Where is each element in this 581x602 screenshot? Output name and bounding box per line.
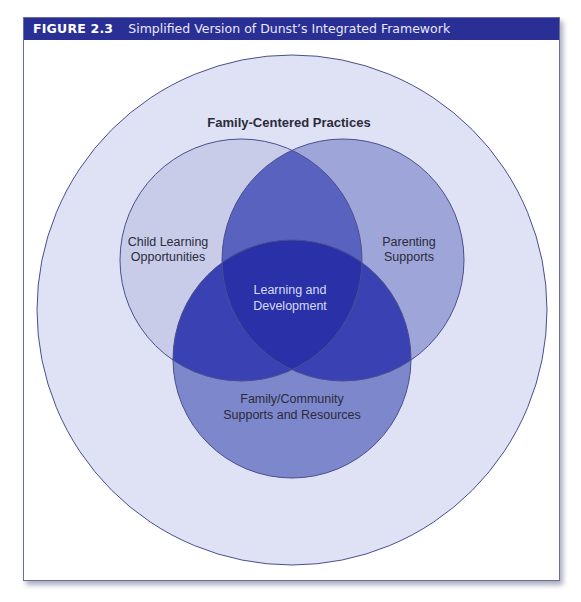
label-family-community-line1: Family/Community bbox=[240, 392, 344, 406]
label-learning-line1: Learning and bbox=[254, 283, 327, 297]
label-child-learning-line1: Child Learning bbox=[128, 235, 209, 249]
label-family-centered-practices: Family-Centered Practices bbox=[207, 115, 370, 130]
label-learning-line2: Development bbox=[253, 299, 327, 313]
venn-diagram: Family-Centered Practices Child Learning… bbox=[0, 0, 581, 602]
label-family-community-line2: Supports and Resources bbox=[223, 408, 361, 422]
label-child-learning-line2: Opportunities bbox=[131, 250, 205, 264]
label-parenting-line1: Parenting bbox=[382, 235, 436, 249]
label-parenting-line2: Supports bbox=[384, 250, 434, 264]
